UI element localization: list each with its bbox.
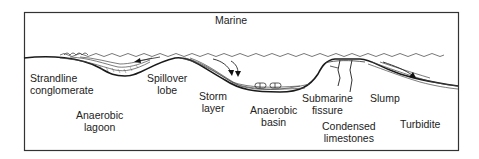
label-line: lagoon <box>76 121 123 133</box>
label-submarine-fissure: Submarine fissure <box>302 92 353 116</box>
label-line: Storm <box>199 90 227 102</box>
label-line: conglomerate <box>30 84 94 96</box>
label-turbidite: Turbidite <box>400 118 440 130</box>
label-line: layer <box>199 102 227 114</box>
storm-layer-strata <box>180 58 310 90</box>
label-line: Spillover <box>147 72 187 84</box>
submarine-fissure-1 <box>338 60 340 86</box>
fissure-branch <box>330 66 338 68</box>
label-anaerobic-lagoon: Anaerobic lagoon <box>76 109 123 133</box>
label-line: Anaerobic <box>76 109 123 121</box>
label-line: Condensed <box>322 120 376 132</box>
sea-surface-line <box>60 54 444 57</box>
label-slump: Slump <box>370 92 400 104</box>
label-storm-layer: Storm layer <box>199 90 227 114</box>
seamount-cap <box>325 61 365 63</box>
label-spillover-lobe: Spillover lobe <box>147 72 187 96</box>
label-line: basin <box>250 116 297 128</box>
submarine-fissure-2 <box>350 60 352 92</box>
label-line: Anaerobic <box>250 104 297 116</box>
label-anaerobic-basin: Anaerobic basin <box>250 104 297 128</box>
label-line: lobe <box>147 84 187 96</box>
label-condensed-limestones: Condensed limestones <box>322 120 376 144</box>
label-strandline-conglomerate: Strandline conglomerate <box>30 72 94 96</box>
storm-arrowhead-1 <box>228 70 234 76</box>
label-line: limestones <box>322 132 376 144</box>
label-line: fissure <box>302 104 353 116</box>
label-line: Strandline <box>30 72 94 84</box>
label-marine: Marine <box>215 14 247 26</box>
storm-arrowhead-2 <box>235 71 241 77</box>
label-line: Submarine <box>302 92 353 104</box>
